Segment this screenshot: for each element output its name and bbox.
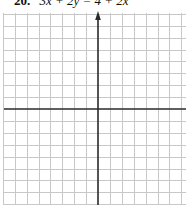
y-axis-arrow-icon xyxy=(95,11,101,20)
coordinate-grid xyxy=(0,0,186,205)
